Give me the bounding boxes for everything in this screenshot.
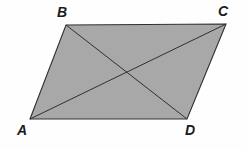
vertex-label-c: C — [218, 4, 228, 18]
vertex-label-b: B — [57, 5, 67, 19]
figure-canvas: A B C D — [0, 0, 246, 149]
parallelogram-diagram — [0, 0, 246, 149]
vertex-label-d: D — [185, 123, 195, 137]
vertex-label-a: A — [17, 123, 27, 137]
